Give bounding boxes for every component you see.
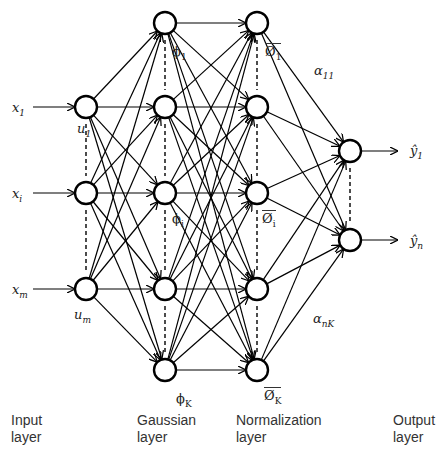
node-label-phii: ϕi xyxy=(172,212,184,229)
neuron-n2 xyxy=(246,96,268,118)
neuron-ui xyxy=(75,182,97,204)
layer-label-output: Outputlayer xyxy=(393,412,435,446)
neuron-phii xyxy=(154,182,176,204)
node-label-normK: ØK xyxy=(264,387,281,406)
output-label-y1: ŷ1 xyxy=(410,144,423,161)
neuron-yn xyxy=(339,229,361,251)
output-label-yn: ŷn xyxy=(410,234,423,251)
neuron-um xyxy=(75,278,97,300)
neuron-phi4 xyxy=(154,278,176,300)
node-label-phiK: ϕK xyxy=(176,392,192,409)
neuron-n4 xyxy=(246,278,268,300)
neuron-ni xyxy=(246,182,268,204)
neuron-u1 xyxy=(75,96,97,118)
neuron-n1 xyxy=(246,12,268,34)
node-label-u1: u1 xyxy=(77,122,91,139)
layer-label-normalization: Normalizationlayer xyxy=(236,412,322,446)
weight-label-alpha11: α11 xyxy=(314,64,334,81)
neuron-nK xyxy=(246,359,268,381)
neuron-phi2 xyxy=(154,96,176,118)
layer-label-gaussian: Gaussianlayer xyxy=(137,412,196,446)
node-label-um: um xyxy=(74,308,91,325)
node-label-phi1: ϕ1 xyxy=(172,45,187,62)
neuron-phi1 xyxy=(154,12,176,34)
figure-caption-faded xyxy=(8,448,318,454)
input-label-xm: xm xyxy=(12,283,28,300)
weight-label-alphanK: αnK xyxy=(313,312,334,329)
layer-label-input: Inputlayer xyxy=(11,412,42,446)
input-label-x1: x1 xyxy=(12,101,25,118)
neuron-y1 xyxy=(339,140,361,162)
neuron-phiK xyxy=(154,359,176,381)
node-label-normi: Øi xyxy=(262,210,276,229)
input-label-xi: xi xyxy=(12,187,22,204)
node-label-norm1: Ø1 xyxy=(265,43,281,62)
network-diagram xyxy=(0,0,445,458)
